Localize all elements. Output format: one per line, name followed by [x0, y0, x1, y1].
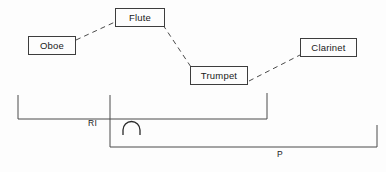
diagram-vector-layer — [0, 0, 386, 172]
node-trumpet-label: Trumpet — [201, 71, 237, 81]
bracket-p-label: P — [277, 150, 283, 159]
node-clarinet[interactable]: Clarinet — [300, 38, 357, 57]
bracket-ri-label: RI — [88, 119, 97, 128]
node-oboe-label: Oboe — [40, 41, 64, 51]
connector-oboe-flute — [76, 22, 115, 40]
node-flute[interactable]: Flute — [115, 8, 165, 27]
connector-group — [76, 22, 300, 81]
intersection-arc-icon — [123, 122, 140, 136]
node-clarinet-label: Clarinet — [311, 43, 345, 53]
node-flute-label: Flute — [129, 13, 151, 23]
bracket-ri — [18, 93, 267, 119]
node-trumpet[interactable]: Trumpet — [190, 66, 248, 85]
diagram-canvas: Oboe Flute Trumpet Clarinet RI P — [0, 0, 386, 172]
connector-flute-trumpet — [163, 25, 193, 70]
node-oboe[interactable]: Oboe — [28, 36, 76, 55]
bracket-p — [110, 95, 377, 147]
connector-trumpet-clarinet — [249, 55, 300, 81]
